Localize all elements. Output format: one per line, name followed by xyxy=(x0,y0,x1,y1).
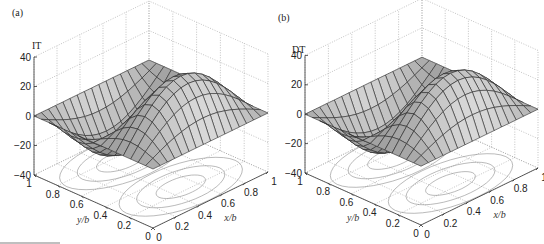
y-tick-label: 0.6 xyxy=(339,197,353,208)
surface-plot: −40−200204000.20.40.60.8100.20.40.60.81y… xyxy=(0,0,272,244)
x-tick-label: 0.8 xyxy=(514,183,528,194)
y-tick-label: 0.6 xyxy=(70,199,84,210)
y-tick-label: 0 xyxy=(413,228,419,239)
x-tick-label: 0.4 xyxy=(467,206,481,217)
z-tick-label: 20 xyxy=(291,79,303,90)
y-tick-label: 0 xyxy=(145,231,151,242)
z-tick-label: 0 xyxy=(296,109,302,120)
z-tick-label: 40 xyxy=(291,50,303,61)
x-tick-label: 0.6 xyxy=(490,195,504,206)
y-tick-label: 0.2 xyxy=(117,220,131,231)
panel-a: (a) IT −40−200204000.20.40.60.8100.20.40… xyxy=(0,0,272,244)
x-axis-label: x/b xyxy=(223,212,236,223)
x-axis-label: x/b xyxy=(492,209,505,220)
y-tick-label: 0.4 xyxy=(363,207,377,218)
x-tick-label: 0.4 xyxy=(198,210,212,221)
y-tick-label: 0.2 xyxy=(386,218,400,229)
y-tick-label: 0.4 xyxy=(93,210,107,221)
x-tick-label: 0.6 xyxy=(221,198,235,209)
x-tick-label: 0 xyxy=(424,229,430,240)
z-tick-label: 0 xyxy=(25,111,31,122)
y-axis-label: y/b xyxy=(76,214,89,225)
y-tick-label: 1 xyxy=(26,178,32,189)
z-tick-label: −20 xyxy=(14,140,31,151)
x-tick-label: 0.8 xyxy=(244,187,258,198)
y-tick-label: 1 xyxy=(297,176,303,187)
x-tick-label: 0 xyxy=(156,232,162,243)
z-tick-label: −20 xyxy=(285,138,302,149)
x-tick-label: 0.2 xyxy=(175,221,189,232)
x-tick-label: 0.2 xyxy=(443,218,457,229)
z-tick-label: 20 xyxy=(20,81,32,92)
y-axis-label: y/b xyxy=(346,212,359,223)
y-tick-label: 0.8 xyxy=(316,186,330,197)
surface-plot: −40−200204000.20.40.60.8100.20.40.60.81y… xyxy=(272,0,544,244)
panel-b: (b) DT −40−200204000.20.40.60.8100.20.40… xyxy=(272,0,544,244)
y-tick-label: 0.8 xyxy=(46,189,60,200)
z-tick-label: 40 xyxy=(20,52,32,63)
